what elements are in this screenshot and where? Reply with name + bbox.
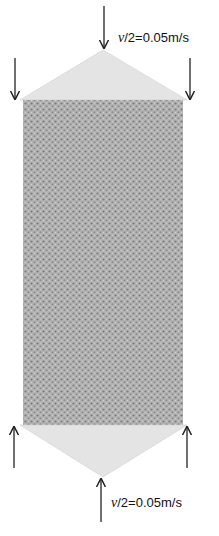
diagram-canvas — [0, 0, 219, 536]
top-velocity-label: v/2=0.05m/s — [118, 30, 189, 46]
top-platen — [20, 50, 187, 100]
bottom-platen — [20, 425, 187, 477]
velocity-value: /2=0.05m/s — [117, 495, 182, 510]
particle-specimen — [23, 100, 183, 425]
loading-diagram: v/2=0.05m/s v/2=0.05m/s — [0, 0, 219, 536]
velocity-value: /2=0.05m/s — [124, 30, 189, 45]
bottom-velocity-label: v/2=0.05m/s — [111, 495, 182, 511]
